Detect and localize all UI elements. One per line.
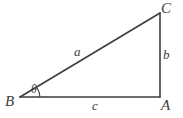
vertex-label-c: C: [161, 1, 171, 16]
angle-theta-arc: [37, 88, 40, 98]
triangle-figure: C A B a b c θ: [0, 0, 183, 118]
vertex-label-a: A: [161, 98, 170, 113]
angle-label-theta: θ: [31, 83, 37, 95]
side-label-b: b: [163, 48, 170, 61]
side-a-line: [20, 13, 160, 97]
side-label-a: a: [74, 45, 81, 58]
side-label-c: c: [92, 99, 98, 112]
vertex-label-b: B: [5, 94, 14, 109]
